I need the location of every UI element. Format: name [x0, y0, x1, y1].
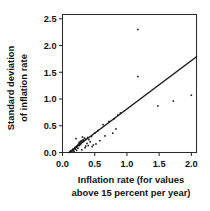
y-tick-label: 2.5	[44, 14, 57, 24]
y-tick-label: 0.0	[44, 148, 57, 158]
data-point	[191, 94, 193, 96]
data-point	[93, 144, 95, 146]
data-point	[157, 105, 159, 107]
data-point	[76, 150, 78, 152]
data-point	[137, 29, 139, 31]
data-point	[88, 139, 90, 141]
x-tick-label: 1.0	[121, 159, 134, 169]
y-tick-label: 2.0	[44, 41, 57, 51]
y-axis-title-line-1: Standard deviation	[5, 46, 16, 131]
data-points-layer	[69, 29, 192, 153]
data-point	[112, 132, 114, 134]
data-point	[104, 135, 106, 137]
y-axis-tick-labels: 0.00.51.01.52.02.5	[44, 14, 57, 158]
data-point	[87, 145, 89, 147]
x-tick-label: 0.0	[56, 159, 69, 169]
data-point	[173, 100, 175, 102]
x-axis-tick-labels: 0.00.51.01.52.0	[56, 159, 198, 169]
x-tick-label: 2.0	[185, 159, 198, 169]
data-point	[84, 147, 86, 149]
plot-frame	[63, 15, 197, 153]
x-axis-title-line-1: Inflation rate (for values	[78, 174, 184, 185]
data-point	[95, 143, 97, 145]
data-point	[99, 140, 101, 142]
data-point	[89, 141, 91, 143]
fitted-regression-line	[69, 57, 197, 153]
y-axis-title-line-2: of inflation rate	[18, 54, 29, 122]
data-point	[73, 151, 75, 153]
scatter-plot-figure: 0.00.51.01.52.02.5 0.00.51.01.52.0 Stand…	[0, 0, 210, 211]
data-point	[82, 136, 84, 138]
y-axis-title: Standard deviation of inflation rate	[5, 46, 29, 131]
y-tick-label: 0.5	[44, 121, 57, 131]
chart-canvas: 0.00.51.01.52.02.5 0.00.51.01.52.0 Stand…	[0, 0, 210, 211]
y-tick-label: 1.0	[44, 94, 57, 104]
x-tick-label: 1.5	[153, 159, 166, 169]
data-point	[137, 76, 139, 78]
data-point	[77, 147, 79, 149]
axis-tickmarks	[59, 19, 191, 156]
data-point	[86, 143, 88, 145]
data-point	[85, 145, 87, 147]
x-axis-title: Inflation rate (for values above 15 perc…	[72, 174, 191, 198]
x-tick-label: 0.5	[88, 159, 101, 169]
data-point	[91, 146, 93, 148]
data-point	[81, 149, 83, 151]
data-point	[102, 124, 104, 126]
y-tick-label: 1.5	[44, 68, 57, 78]
data-point	[115, 128, 117, 130]
x-axis-title-line-2: above 15 percent per year)	[72, 187, 191, 198]
data-point	[75, 138, 77, 140]
